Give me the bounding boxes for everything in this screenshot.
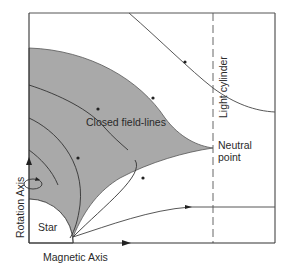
arrow-marker xyxy=(76,156,79,159)
magnetic-axis-arrow-icon xyxy=(122,240,131,246)
neutral-point-label-line2: point xyxy=(218,152,241,163)
magnetic-axis-label: Magnetic Axis xyxy=(43,252,108,263)
arrow-marker xyxy=(185,205,192,209)
rotation-axis-label: Rotation Axis xyxy=(15,177,26,238)
closed-field-lines-label: Closed field-lines xyxy=(86,117,166,128)
star-label: Star xyxy=(38,222,57,233)
light-cylinder-label: Light cylinder xyxy=(218,56,229,118)
arrow-marker xyxy=(183,60,186,63)
open-field-line-lower xyxy=(73,207,275,237)
arrow-marker xyxy=(141,176,144,179)
arrow-marker xyxy=(151,96,154,99)
arrow-marker xyxy=(96,107,99,110)
neutral-point-label-line1: Neutral xyxy=(218,140,252,151)
open-field-line-upper xyxy=(129,13,275,112)
